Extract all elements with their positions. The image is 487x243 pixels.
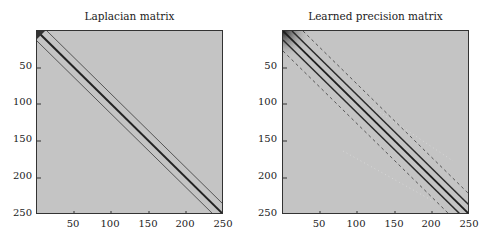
x-tick-150: 150 xyxy=(379,218,409,229)
precision-heatmap xyxy=(282,30,469,214)
y-tick-200: 200 xyxy=(247,170,277,181)
y-tick-100: 100 xyxy=(247,96,277,107)
x-tick-100: 100 xyxy=(341,218,371,229)
y-tick-50: 50 xyxy=(2,60,32,71)
precision-panel: Learned precision matrix xyxy=(243,0,487,243)
laplacian-panel: Laplacian matrix 50 100 150 200 250 50 1… xyxy=(0,0,243,243)
x-tick-250: 250 xyxy=(208,218,238,229)
x-tick-150: 150 xyxy=(133,218,163,229)
laplacian-title: Laplacian matrix xyxy=(36,10,223,22)
y-tick-250: 250 xyxy=(247,207,277,218)
y-tick-150: 150 xyxy=(247,133,277,144)
y-tick-250: 250 xyxy=(2,207,32,218)
y-tick-100: 100 xyxy=(2,96,32,107)
x-tick-50: 50 xyxy=(304,218,334,229)
x-tick-200: 200 xyxy=(416,218,446,229)
x-tick-100: 100 xyxy=(95,218,125,229)
y-tick-150: 150 xyxy=(2,133,32,144)
x-tick-200: 200 xyxy=(170,218,200,229)
x-tick-250: 250 xyxy=(454,218,484,229)
laplacian-heatmap xyxy=(36,30,223,214)
y-tick-200: 200 xyxy=(2,170,32,181)
y-tick-50: 50 xyxy=(247,60,277,71)
x-tick-50: 50 xyxy=(58,218,88,229)
precision-title: Learned precision matrix xyxy=(282,10,469,22)
